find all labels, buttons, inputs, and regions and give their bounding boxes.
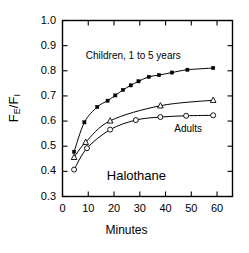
y-tick-label-3: 0.6 <box>30 114 56 126</box>
marker-1-4 <box>210 97 216 102</box>
y-tick-label-2: 0.5 <box>30 139 56 151</box>
x-tick-label-3: 30 <box>130 202 150 214</box>
marker-0-9 <box>157 73 160 76</box>
marker-0-7 <box>137 80 140 83</box>
marker-2-3 <box>133 118 138 123</box>
chart-figure: FE/FI Children, 1 to 5 years Adults Halo… <box>0 0 249 253</box>
marker-2-1 <box>84 146 89 151</box>
x-tick-label-0: 0 <box>53 202 73 214</box>
marker-0-5 <box>121 88 124 91</box>
annotation-children: Children, 1 to 5 years <box>0 50 249 61</box>
y-tick-label-0: 0.3 <box>30 190 56 202</box>
x-tick-label-1: 10 <box>78 202 98 214</box>
y-tick-label-1: 0.4 <box>30 164 56 176</box>
x-axis-title: Minutes <box>0 223 249 237</box>
marker-0-10 <box>170 71 173 74</box>
y-tick-label-7: 1.0 <box>30 14 56 26</box>
y-tick-label-4: 0.7 <box>30 89 56 101</box>
marker-0-11 <box>186 68 189 71</box>
x-tick-label-2: 20 <box>104 202 124 214</box>
series-2 <box>72 113 216 172</box>
marker-2-4 <box>158 115 163 120</box>
x-tick-label-6: 60 <box>207 202 227 214</box>
marker-0-12 <box>212 66 215 69</box>
marker-0-2 <box>96 105 99 108</box>
marker-0-6 <box>129 84 132 87</box>
marker-2-6 <box>211 113 216 118</box>
marker-2-5 <box>184 113 189 118</box>
y-tick-label-6: 0.9 <box>30 39 56 51</box>
marker-0-8 <box>147 75 150 78</box>
x-tick-label-4: 40 <box>156 202 176 214</box>
marker-0-0 <box>72 150 75 153</box>
marker-0-4 <box>114 94 117 97</box>
marker-0-3 <box>106 99 109 102</box>
y-tick-label-5: 0.8 <box>30 64 56 76</box>
x-tick-label-5: 50 <box>181 202 201 214</box>
